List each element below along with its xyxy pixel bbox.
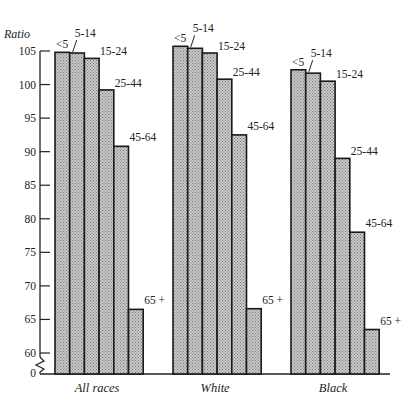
bar-group-white: <55-1415-2425-4445-6465 + — [173, 22, 283, 374]
y-tick-label: 60 — [25, 347, 37, 359]
bar-label: <5 — [56, 38, 68, 50]
bar-label: 15-24 — [218, 40, 245, 52]
label-leader-line — [191, 35, 195, 47]
bar — [291, 70, 306, 374]
y-tick-label: 85 — [25, 179, 37, 191]
bar-group-black: <55-1415-2425-4445-6465 + — [291, 47, 401, 374]
bar-label: 5-14 — [311, 47, 332, 59]
bar-label: 5-14 — [193, 22, 214, 34]
bar — [365, 330, 380, 374]
category-label: Black — [319, 381, 348, 395]
bar-label: 5-14 — [75, 27, 96, 39]
bar-label: 45-64 — [366, 217, 393, 229]
bar — [202, 53, 217, 374]
axis-break-icon — [36, 357, 44, 374]
bar-label: <5 — [292, 56, 304, 68]
bar-label: 65 + — [262, 294, 283, 306]
bar — [335, 158, 350, 374]
y-tick-label: 95 — [25, 112, 37, 124]
bar — [306, 73, 321, 374]
category-label: White — [201, 381, 231, 395]
bar-group-all-races: <55-1415-2425-4445-6465 + — [55, 27, 165, 374]
bar-label: 45-64 — [248, 120, 275, 132]
bar — [99, 90, 114, 374]
y-tick-label: 105 — [19, 45, 37, 57]
y-tick-label: 65 — [25, 313, 37, 325]
bar-groups: <55-1415-2425-4445-6465 +<55-1415-2425-4… — [55, 22, 401, 374]
y-tick-label: 70 — [25, 280, 37, 292]
bar-label: 25-44 — [115, 77, 142, 89]
y-tick-label: 100 — [19, 79, 37, 91]
bar — [173, 46, 188, 374]
bar-label: 15-24 — [100, 45, 127, 57]
bar — [350, 232, 365, 374]
bar — [232, 135, 247, 374]
label-leader-line — [73, 40, 77, 52]
bar — [84, 58, 99, 374]
category-label: All races — [74, 381, 120, 395]
bar-label: 25-44 — [233, 66, 260, 78]
bar-label: 45-64 — [130, 131, 157, 143]
bar-label: <5 — [174, 32, 186, 44]
sex-ratio-bar-chart: Ratio 10510095908580757065600 <55-1415-2… — [0, 0, 409, 415]
bar — [217, 79, 232, 374]
bar — [247, 309, 262, 374]
bar — [320, 81, 335, 374]
bar — [70, 53, 85, 374]
bar — [129, 309, 144, 374]
category-labels: All racesWhiteBlack — [74, 381, 348, 395]
bar — [188, 48, 203, 374]
label-leader-line — [309, 60, 313, 72]
y-axis-zero-label: 0 — [30, 367, 36, 379]
bar-label: 25-44 — [351, 145, 378, 157]
y-tick-label: 80 — [25, 213, 37, 225]
y-tick-label: 90 — [25, 146, 37, 158]
bar-label: 65 + — [380, 315, 401, 327]
bar — [55, 52, 70, 374]
bar-label: 65 + — [144, 294, 165, 306]
y-tick-label: 75 — [25, 246, 37, 258]
y-axis-title: Ratio — [3, 27, 30, 41]
bar-label: 15-24 — [336, 68, 363, 80]
bar — [114, 146, 129, 374]
